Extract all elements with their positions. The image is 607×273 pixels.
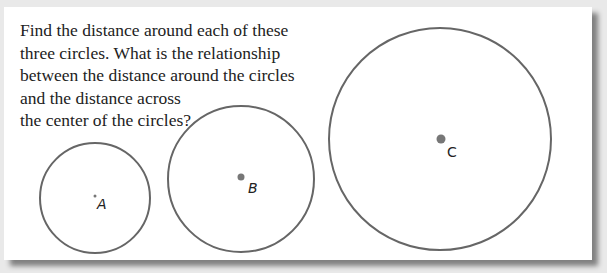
- circle-c-center-dot: [437, 135, 446, 144]
- circle-a-label: A: [96, 196, 107, 212]
- circle-c: C: [329, 28, 551, 250]
- circle-c-label: C: [447, 144, 457, 160]
- circle-b-center-dot: [238, 174, 245, 181]
- circle-b-label: B: [248, 180, 258, 196]
- circle-a-outline: [40, 143, 150, 253]
- circle-b: B: [168, 106, 314, 252]
- circle-a: A: [40, 143, 150, 253]
- circles-figure: A B C: [0, 0, 607, 273]
